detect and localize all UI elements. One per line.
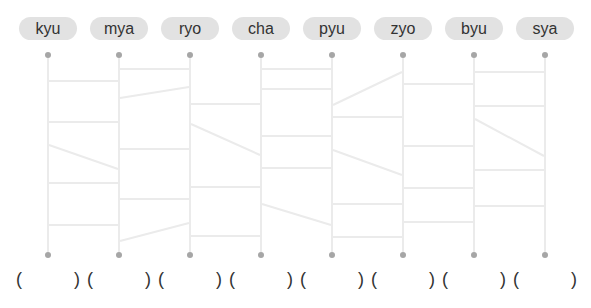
bottom-dot-2 [116, 252, 122, 258]
close-paren: ) [216, 264, 222, 294]
answer-slot-4[interactable] [241, 268, 281, 290]
answer-slot-2[interactable] [99, 268, 139, 290]
ladder-rung [49, 145, 118, 169]
answer-blank-3: ( ) [158, 264, 222, 294]
bottom-dot-3 [187, 252, 193, 258]
answer-blank-5: ( ) [300, 264, 364, 294]
ladder-rung [191, 124, 260, 155]
answer-slot-3[interactable] [170, 268, 210, 290]
answer-blank-1: ( ) [16, 264, 80, 294]
answer-blank-8: ( ) [513, 264, 577, 294]
ladder-rungs [49, 69, 544, 241]
top-dot-3 [187, 52, 193, 58]
answer-blank-2: ( ) [87, 264, 151, 294]
bottom-dot-7 [471, 252, 477, 258]
ladder-rung [475, 119, 544, 156]
open-paren: ( [371, 264, 377, 294]
open-paren: ( [158, 264, 164, 294]
ladder-rung [120, 87, 189, 98]
open-paren: ( [16, 264, 22, 294]
ladder-endpoint-dots [45, 52, 548, 258]
bottom-dot-4 [258, 252, 264, 258]
bottom-dot-5 [329, 252, 335, 258]
ladder-rung [333, 150, 402, 175]
top-dot-7 [471, 52, 477, 58]
top-dot-5 [329, 52, 335, 58]
answer-slot-6[interactable] [383, 268, 423, 290]
open-paren: ( [229, 264, 235, 294]
answer-slot-1[interactable] [28, 268, 68, 290]
top-dot-6 [400, 52, 406, 58]
open-paren: ( [513, 264, 519, 294]
open-paren: ( [442, 264, 448, 294]
bottom-dot-6 [400, 252, 406, 258]
bottom-dot-8 [542, 252, 548, 258]
ladder-diagram [0, 0, 591, 308]
open-paren: ( [87, 264, 93, 294]
answer-slot-5[interactable] [312, 268, 352, 290]
close-paren: ) [145, 264, 151, 294]
ladder-rung [262, 204, 331, 225]
close-paren: ) [500, 264, 506, 294]
answer-slot-7[interactable] [454, 268, 494, 290]
answer-blank-7: ( ) [442, 264, 506, 294]
top-dot-4 [258, 52, 264, 58]
answer-row: ( ) ( ) ( ) ( ) ( ) ( ) ( ) ( ) [0, 264, 591, 294]
open-paren: ( [300, 264, 306, 294]
ladder-rung [120, 223, 189, 241]
top-dot-2 [116, 52, 122, 58]
close-paren: ) [287, 264, 293, 294]
top-dot-8 [542, 52, 548, 58]
close-paren: ) [358, 264, 364, 294]
top-dot-1 [45, 52, 51, 58]
close-paren: ) [429, 264, 435, 294]
answer-blank-6: ( ) [371, 264, 435, 294]
answer-blank-4: ( ) [229, 264, 293, 294]
close-paren: ) [571, 264, 577, 294]
bottom-dot-1 [45, 252, 51, 258]
close-paren: ) [74, 264, 80, 294]
ladder-rung [333, 72, 402, 105]
answer-slot-8[interactable] [525, 268, 565, 290]
